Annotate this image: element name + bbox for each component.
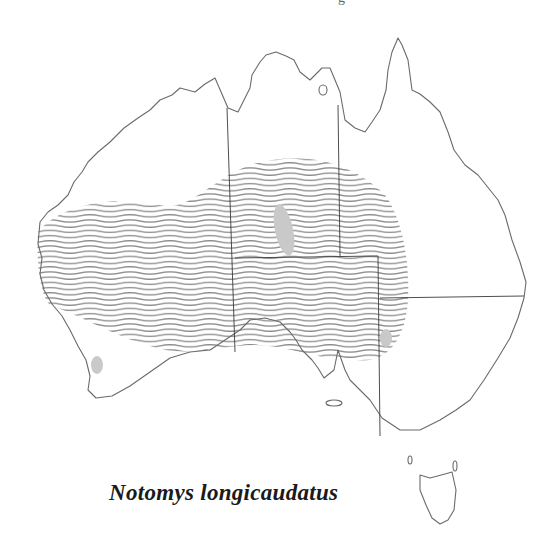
king-island bbox=[408, 456, 412, 464]
distribution-map bbox=[0, 0, 557, 545]
nsw-border-patch bbox=[380, 329, 392, 347]
southwest-wa-patch bbox=[91, 356, 103, 374]
range-hatching bbox=[30, 150, 420, 370]
flinders-island bbox=[453, 461, 457, 471]
tasmania bbox=[420, 472, 456, 524]
species-caption: Notomys longicaudatus bbox=[109, 480, 338, 506]
kangaroo-island bbox=[326, 400, 342, 406]
groote-eylandt bbox=[319, 85, 327, 95]
